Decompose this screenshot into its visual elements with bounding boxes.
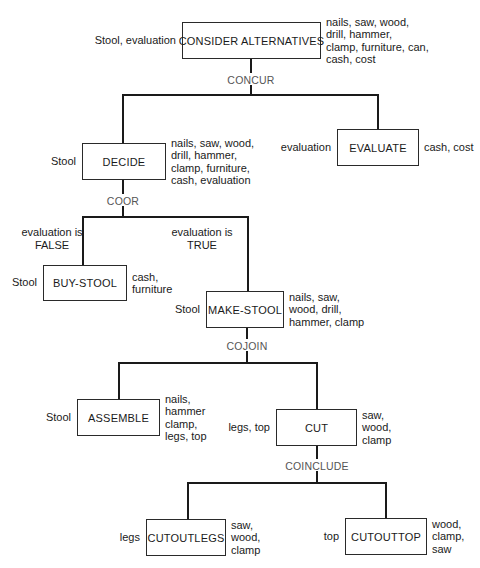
node-label: DECIDE — [103, 156, 146, 168]
resources-consider-alternatives: nails, saw, wood, drill, hammer, clamp, … — [326, 16, 429, 66]
node-evaluate: EVALUATE — [337, 129, 419, 166]
inputs-cut-out-top: top — [324, 530, 339, 543]
inputs-assemble: Stool — [46, 411, 71, 424]
node-label: CUT — [305, 422, 328, 434]
resources-cut: saw, wood, clamp — [362, 409, 391, 447]
node-cut-out-legs: CUTOUTLEGS — [146, 519, 226, 556]
node-cut-out-top: CUTOUTTOP — [345, 518, 427, 555]
inputs-make-stool: Stool — [175, 303, 200, 316]
node-buy-stool: BUY-STOOL — [43, 265, 127, 301]
connector-label-cojoin: COJOIN — [227, 340, 268, 352]
condition-evaluation-true: evaluation is TRUE — [171, 226, 232, 252]
node-label: CONSIDER ALTERNATIVES — [179, 35, 325, 47]
inputs-evaluate: evaluation — [281, 141, 331, 154]
resources-decide: nails, saw, wood, drill, hammer, clamp, … — [171, 137, 254, 187]
resources-buy-stool: cash, furniture — [132, 271, 172, 296]
node-label: CUTOUTLEGS — [148, 532, 225, 544]
node-label: MAKE-STOOL — [208, 304, 282, 316]
node-decide: DECIDE — [82, 143, 166, 180]
node-label: CUTOUTTOP — [351, 531, 421, 543]
node-assemble: ASSEMBLE — [77, 399, 160, 436]
inputs-decide: Stool — [51, 155, 76, 168]
inputs-cut: legs, top — [228, 421, 270, 434]
condition-evaluation-false: evaluation is FALSE — [21, 226, 82, 252]
node-label: ASSEMBLE — [88, 412, 149, 424]
process-tree-diagram: CONSIDER ALTERNATIVES DECIDE EVALUATE BU… — [0, 0, 480, 568]
connector-label-concur: CONCUR — [227, 74, 274, 86]
node-make-stool: MAKE-STOOL — [206, 291, 284, 328]
inputs-consider-alternatives: Stool, evaluation — [95, 34, 176, 47]
node-label: EVALUATE — [349, 142, 406, 154]
resources-cut-out-top: wood, clamp, saw — [432, 518, 464, 556]
resources-evaluate: cash, cost — [424, 141, 474, 154]
node-cut: CUT — [276, 409, 357, 446]
node-consider-alternatives: CONSIDER ALTERNATIVES — [182, 22, 321, 59]
resources-cut-out-legs: saw, wood, clamp — [231, 519, 260, 557]
inputs-buy-stool: Stool — [12, 276, 37, 289]
connector-label-coor: COOR — [107, 195, 139, 207]
resources-make-stool: nails, saw, wood, drill, hammer, clamp — [289, 291, 364, 329]
inputs-cut-out-legs: legs — [120, 531, 140, 544]
connector-label-coinclude: COINCLUDE — [285, 460, 349, 472]
node-label: BUY-STOOL — [53, 277, 117, 289]
resources-assemble: nails, hammer clamp, legs, top — [165, 393, 207, 443]
